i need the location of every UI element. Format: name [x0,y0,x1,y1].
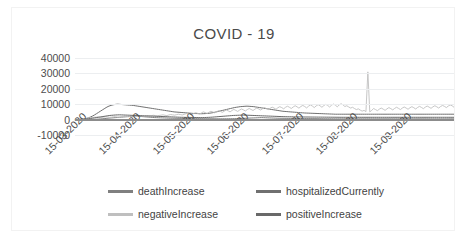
gridline [75,135,454,136]
y-axis-tick-label: 30000 [12,67,70,79]
legend-item-deathincrease[interactable]: deathIncrease [108,185,205,197]
gridline [75,104,454,105]
x-axis: 15-03-202015-04-202015-05-202015-06-2020… [12,8,456,68]
legend-item-label: negativeIncrease [138,208,218,220]
y-axis-tick-label: 10000 [12,98,70,110]
gridline [75,58,454,59]
legend-item-negativeincrease[interactable]: negativeIncrease [108,208,218,220]
legend-swatch-icon [108,190,133,193]
zero-axis-line [75,119,454,121]
chart-legend: deathIncreasehospitalizedCurrentlynegati… [108,185,408,231]
legend-swatch-icon [256,190,281,193]
legend-swatch-icon [108,213,133,216]
legend-item-label: positiveIncrease [286,208,362,220]
legend-item-hospitalizedcurrently[interactable]: hospitalizedCurrently [256,185,384,197]
gridline [75,89,454,90]
legend-item-positiveincrease[interactable]: positiveIncrease [256,208,362,220]
legend-swatch-icon [256,213,281,216]
y-axis-tick-label: 0 [12,114,70,126]
y-axis-tick-label: 20000 [12,83,70,95]
legend-item-label: hospitalizedCurrently [286,185,384,197]
gridline [75,73,454,74]
legend-item-label: deathIncrease [138,185,205,197]
chart-container: COVID - 19 400003000020000100000-10000 1… [11,7,455,231]
